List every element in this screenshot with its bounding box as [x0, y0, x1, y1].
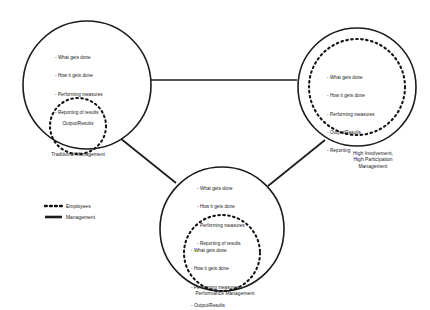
legend-employees-label: Employees [66, 204, 91, 210]
performance-inner-item-0: - What gets done [191, 248, 239, 254]
high-involvement-inner-item-0: - What gets done [327, 75, 375, 81]
traditional-outer-item-1: - How it gets done [55, 73, 103, 79]
performance-management-caption: Performance Management [165, 291, 285, 297]
high-involvement-inner-item-3: - Output/Results [327, 130, 375, 136]
performance-outer-item-2: - Performing measures [197, 223, 245, 229]
high-involvement-inner-item-2: - Performing measures [327, 112, 375, 118]
performance-inner-item-3: - Output/Results [191, 303, 239, 309]
high-involvement-management-caption: High Involvement, High Participation Man… [318, 151, 428, 170]
performance-inner-item-2: - Performing measures [191, 285, 239, 291]
performance-outer-item-0: - What gets done [197, 186, 245, 192]
performance-inner-item-1: - How it gets done [191, 266, 239, 272]
performance-inner-items: - What gets done - How it gets done - Pe… [191, 236, 239, 310]
connector-left-to-bottom [115, 134, 176, 183]
connector-right-to-bottom [268, 140, 325, 186]
traditional-outer-item-2: - Performing measures [55, 92, 103, 98]
traditional-outer-items: - What gets done - How it gets done - Pe… [55, 43, 103, 128]
traditional-management-caption: Traditional Management [28, 152, 128, 158]
performance-outer-item-1: - How it gets done [197, 204, 245, 210]
legend-management-label: Management [66, 215, 95, 221]
diagram-root: - What gets done - How it gets done - Pe… [0, 0, 430, 310]
traditional-outer-item-0: - What gets done [55, 55, 103, 61]
traditional-outer-item-3: - Reporting of results [55, 110, 103, 116]
high-involvement-inner-item-1: - How it gets done [327, 93, 375, 99]
traditional-inner-label: Output/Results [48, 121, 108, 127]
legend-marks [45, 206, 62, 217]
